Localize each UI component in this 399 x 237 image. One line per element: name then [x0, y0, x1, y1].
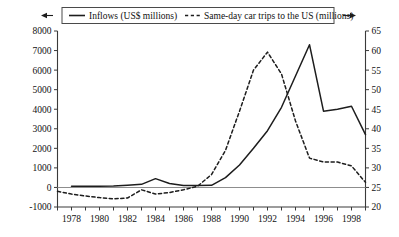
x-axis-tick-label: 1978	[62, 214, 81, 224]
chart-figure: -100001000200030004000500060007000800020…	[0, 0, 399, 237]
left-axis-tick-label: 7000	[33, 46, 52, 56]
left-axis-tick-label: 5000	[33, 85, 52, 95]
right-axis-tick-label: 30	[372, 163, 382, 173]
right-axis-tick-label: 55	[372, 66, 382, 76]
right-axis-tick-label: 45	[372, 105, 382, 115]
x-axis-tick-label: 1994	[286, 214, 305, 224]
right-axis-tick-label: 35	[372, 144, 382, 154]
x-axis-tick-label: 1996	[314, 214, 333, 224]
left-axis-tick-label: 4000	[33, 105, 52, 115]
right-axis-tick-label: 25	[372, 183, 382, 193]
x-axis-tick-label: 1988	[202, 214, 221, 224]
line-chart: -100001000200030004000500060007000800020…	[0, 0, 399, 237]
series-line-same-day-car-trips	[58, 52, 366, 199]
right-axis-tick-label: 40	[372, 124, 382, 134]
x-axis-tick-label: 1990	[230, 214, 249, 224]
right-axis-tick-label: 65	[372, 26, 382, 36]
x-axis-tick-label: 1982	[118, 214, 137, 224]
left-axis-tick-label: 0	[47, 183, 52, 193]
x-axis-tick-label: 1992	[258, 214, 277, 224]
x-axis-tick-label: 1986	[174, 214, 193, 224]
right-axis-tick-label: 50	[372, 85, 382, 95]
left-axis-tick-label: 6000	[33, 66, 52, 76]
x-axis-tick-label: 1980	[90, 214, 109, 224]
left-axis-tick-label: 1000	[33, 163, 52, 173]
right-axis-tick-label: 20	[372, 202, 382, 212]
left-axis-tick-label: 8000	[33, 26, 52, 36]
x-axis-tick-label: 1984	[146, 214, 165, 224]
left-arrow-head-icon	[41, 13, 47, 19]
legend-label-car-trips: Same-day car trips to the US (millions)	[204, 11, 353, 22]
x-axis-tick-label: 1998	[342, 214, 361, 224]
series-line-inflows	[72, 45, 366, 187]
legend-label-inflows: Inflows (US$ millions)	[89, 11, 177, 22]
left-axis-tick-label: 3000	[33, 124, 52, 134]
right-axis-tick-label: 60	[372, 46, 382, 56]
left-axis-tick-label: -1000	[29, 202, 51, 212]
left-axis-tick-label: 2000	[33, 144, 52, 154]
